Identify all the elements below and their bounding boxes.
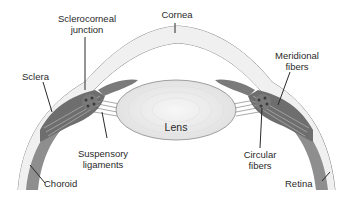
label-sclerocorneal-junction: Sclerocorneal junction	[42, 13, 132, 35]
label-retina: Retina	[285, 178, 312, 189]
label-lens: Lens	[156, 122, 196, 133]
label-choroid: Choroid	[44, 178, 77, 189]
label-sclera: Sclera	[22, 71, 49, 82]
label-circular-fibers-line1: Circular	[235, 149, 285, 160]
label-meridional-fibers-line1: Meridional	[262, 50, 332, 61]
label-cornea: Cornea	[157, 9, 197, 20]
label-sclerocorneal-junction-line2: junction	[42, 24, 132, 35]
label-circular-fibers: Circular fibers	[235, 149, 285, 171]
label-meridional-fibers: Meridional fibers	[262, 50, 332, 72]
label-suspensory-ligaments-line1: Suspensory	[68, 148, 138, 159]
eye-diagram: Cornea Sclerocorneal junction Sclera Mer…	[0, 0, 353, 205]
label-sclerocorneal-junction-line1: Sclerocorneal	[42, 13, 132, 24]
label-suspensory-ligaments: Suspensory ligaments	[68, 148, 138, 170]
label-circular-fibers-line2: fibers	[235, 160, 285, 171]
label-meridional-fibers-line2: fibers	[262, 61, 332, 72]
label-suspensory-ligaments-line2: ligaments	[68, 159, 138, 170]
